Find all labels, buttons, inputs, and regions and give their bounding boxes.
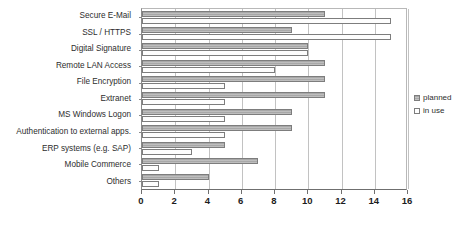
bar-planned: [142, 92, 325, 98]
bar-row: [142, 25, 406, 41]
category-label: Mobile Commerce: [0, 157, 136, 174]
axis-tick: [139, 164, 142, 165]
bar-row: [142, 156, 406, 172]
bar-in-use: [142, 165, 159, 171]
bar-planned: [142, 60, 325, 66]
axis-tick-label: 10: [302, 195, 313, 206]
bar-planned: [142, 27, 292, 33]
bar-planned: [142, 158, 258, 164]
legend-label: planned: [423, 93, 451, 102]
axis-tick: [274, 190, 275, 194]
gridline: [408, 9, 409, 189]
axis-tick: [139, 132, 142, 133]
category-label: Extranet: [0, 91, 136, 108]
legend-item-planned: planned: [414, 93, 451, 102]
legend-swatch-icon: [414, 108, 420, 114]
axis-tick-label: 8: [271, 195, 276, 206]
bar-in-use: [142, 149, 192, 155]
plot-area: [141, 8, 407, 190]
axis-tick-label: 16: [402, 195, 413, 206]
axis-tick: [341, 190, 342, 194]
axis-tick: [139, 181, 142, 182]
axis-tick: [139, 34, 142, 35]
chart-legend: planned in use: [414, 93, 451, 115]
bar-planned: [142, 109, 292, 115]
axis-tick: [139, 50, 142, 51]
bar-planned: [142, 76, 325, 82]
legend-label: in use: [423, 106, 444, 115]
category-label: Remote LAN Access: [0, 58, 136, 75]
category-label: ERP systems (e.g. SAP): [0, 140, 136, 157]
axis-tick: [241, 190, 242, 194]
axis-tick: [208, 190, 209, 194]
axis-tick: [139, 99, 142, 100]
bar-planned: [142, 43, 308, 49]
bar-in-use: [142, 181, 159, 187]
bar-in-use: [142, 67, 275, 73]
category-label: File Encryption: [0, 74, 136, 91]
axis-tick-label: 2: [172, 195, 177, 206]
category-axis-labels: Secure E-Mail SSL / HTTPS Digital Signat…: [0, 8, 136, 190]
bar-row: [142, 124, 406, 140]
axis-tick: [139, 17, 142, 18]
bar-planned: [142, 174, 209, 180]
category-label: Others: [0, 173, 136, 190]
axis-tick-label: 14: [368, 195, 379, 206]
axis-tick: [374, 190, 375, 194]
bar-in-use: [142, 34, 391, 40]
bar-row: [142, 91, 406, 107]
axis-tick-label: 4: [205, 195, 210, 206]
bar-row: [142, 173, 406, 189]
axis-tick: [139, 148, 142, 149]
bar-row: [142, 74, 406, 90]
axis-tick-label: 6: [238, 195, 243, 206]
category-label: Secure E-Mail: [0, 8, 136, 25]
bar-in-use: [142, 50, 308, 56]
bar-planned: [142, 142, 225, 148]
value-axis: 0246810121416: [141, 190, 407, 210]
axis-tick: [139, 66, 142, 67]
axis-tick: [141, 190, 142, 194]
axis-tick: [307, 190, 308, 194]
bar-chart: Secure E-Mail SSL / HTTPS Digital Signat…: [0, 0, 472, 228]
bar-row: [142, 42, 406, 58]
bar-row: [142, 140, 406, 156]
axis-tick-label: 12: [335, 195, 346, 206]
bar-in-use: [142, 116, 225, 122]
bar-in-use: [142, 132, 225, 138]
bar-row: [142, 58, 406, 74]
bar-row: [142, 107, 406, 123]
axis-tick-label: 0: [138, 195, 143, 206]
bar-rows: [142, 9, 406, 189]
axis-tick: [139, 83, 142, 84]
bar-in-use: [142, 83, 225, 89]
legend-item-in-use: in use: [414, 106, 451, 115]
bar-in-use: [142, 99, 225, 105]
bar-in-use: [142, 18, 391, 24]
category-label: MS Windows Logon: [0, 107, 136, 124]
category-label: Digital Signature: [0, 41, 136, 58]
legend-swatch-icon: [414, 95, 420, 101]
bar-row: [142, 9, 406, 25]
category-label: SSL / HTTPS: [0, 25, 136, 42]
axis-tick: [174, 190, 175, 194]
axis-tick: [139, 115, 142, 116]
bar-planned: [142, 125, 292, 131]
axis-tick: [407, 190, 408, 194]
bar-planned: [142, 11, 325, 17]
category-label: Authentication to external apps.: [0, 124, 136, 141]
